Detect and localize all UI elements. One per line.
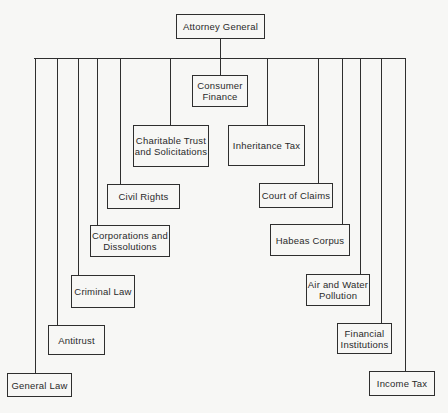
root-box-attorney-general: Attorney General bbox=[176, 14, 265, 39]
connector-line bbox=[220, 39, 221, 58]
connector-line bbox=[57, 58, 58, 325]
box-label: Income Tax bbox=[377, 378, 427, 389]
box-label: Consumer Finance bbox=[193, 80, 247, 102]
division-box: Corporations and Dissolutions bbox=[90, 225, 170, 257]
connector-line bbox=[318, 58, 319, 183]
connector-line bbox=[97, 58, 98, 225]
box-label: Antitrust bbox=[58, 335, 95, 346]
connector-line bbox=[405, 58, 406, 371]
box-label: Civil Rights bbox=[119, 191, 169, 202]
division-box: Charitable Trust and Solicitations bbox=[133, 125, 209, 167]
division-box: Antitrust bbox=[48, 325, 105, 355]
division-box: General Law bbox=[7, 373, 72, 397]
connector-line bbox=[35, 58, 36, 373]
division-box: Consumer Finance bbox=[192, 75, 248, 107]
box-label: Air and Water Pollution bbox=[307, 279, 369, 301]
division-box: Criminal Law bbox=[71, 275, 135, 308]
connector-line bbox=[170, 58, 171, 125]
division-box: Financial Institutions bbox=[337, 323, 392, 354]
division-box: Civil Rights bbox=[107, 184, 180, 209]
box-label: Inheritance Tax bbox=[233, 140, 300, 151]
box-label: Court of Claims bbox=[262, 190, 330, 201]
connector-line bbox=[342, 58, 343, 224]
division-box: Air and Water Pollution bbox=[306, 274, 370, 306]
box-label: Corporations and Dissolutions bbox=[91, 230, 169, 252]
division-box: Habeas Corpus bbox=[270, 224, 350, 256]
division-box: Inheritance Tax bbox=[228, 125, 305, 166]
box-label: Attorney General bbox=[183, 21, 258, 32]
box-label: Criminal Law bbox=[74, 286, 131, 297]
box-label: General Law bbox=[11, 380, 67, 391]
division-box: Court of Claims bbox=[259, 183, 333, 208]
box-label: Financial Institutions bbox=[338, 328, 391, 350]
division-box: Income Tax bbox=[369, 371, 435, 396]
connector-line bbox=[220, 58, 221, 75]
box-label: Habeas Corpus bbox=[276, 235, 345, 246]
connector-line bbox=[360, 58, 361, 274]
box-label: Charitable Trust and Solicitations bbox=[134, 135, 208, 157]
connector-line bbox=[78, 58, 79, 275]
connector-line bbox=[120, 58, 121, 184]
connector-line bbox=[267, 58, 268, 125]
connector-line bbox=[381, 58, 382, 323]
